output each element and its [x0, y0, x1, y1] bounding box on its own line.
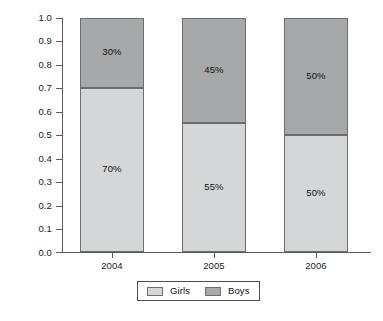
y-tick-label-0-2: 0.2 [26, 201, 52, 211]
bar-2006-label-girls: 50% [306, 188, 325, 198]
plot-area: 30% 70% 45% 55% 50% 50% [63, 18, 370, 252]
x-tick-mark-2006 [316, 253, 317, 258]
legend-swatch-girls-icon [147, 287, 163, 296]
y-tick-label-0-3: 0.3 [26, 177, 52, 187]
bar-2006-segment-girls[interactable]: 50% [284, 135, 348, 252]
y-tick-label-0-6: 0.6 [26, 107, 52, 117]
bar-2004-label-boys: 30% [102, 47, 121, 57]
bar-2004[interactable]: 30% 70% [80, 18, 144, 252]
bar-2005-label-girls: 55% [204, 182, 223, 192]
y-tick-label-0-1: 0.1 [26, 224, 52, 234]
bar-2004-label-girls: 70% [102, 164, 121, 174]
bar-2006-segment-boys[interactable]: 50% [284, 18, 348, 135]
legend-label-boys: Boys [228, 286, 250, 296]
legend-entry-girls[interactable]: Girls [147, 286, 190, 296]
y-tick-label-0-4: 0.4 [26, 154, 52, 164]
bar-2005-segment-boys[interactable]: 45% [182, 18, 246, 123]
bar-2006-label-boys: 50% [306, 71, 325, 81]
legend-entry-boys[interactable]: Boys [205, 286, 250, 296]
x-tick-label-2004: 2004 [82, 261, 142, 271]
y-tick-label-0-7: 0.7 [26, 83, 52, 93]
y-tick-label-0-8: 0.8 [26, 60, 52, 70]
bar-2006[interactable]: 50% 50% [284, 18, 348, 252]
legend-label-girls: Girls [170, 286, 190, 296]
bar-2005-segment-girls[interactable]: 55% [182, 123, 246, 252]
x-tick-label-2005: 2005 [184, 261, 244, 271]
bar-2004-segment-boys[interactable]: 30% [80, 18, 144, 88]
y-tick-label-0-0: 0.0 [26, 248, 52, 258]
stacked-bar-chart: 1.0 0.9 0.8 0.7 0.6 0.5 0.4 0.3 0.2 0.1 … [0, 0, 383, 321]
y-tick-label-1-0: 1.0 [26, 13, 52, 23]
chart-legend: Girls Boys [137, 281, 260, 301]
y-tick-label-0-9: 0.9 [26, 36, 52, 46]
x-tick-label-2006: 2006 [286, 261, 346, 271]
x-tick-mark-2005 [214, 253, 215, 258]
y-axis-tick-labels: 1.0 0.9 0.8 0.7 0.6 0.5 0.4 0.3 0.2 0.1 … [24, 0, 52, 321]
bar-2004-segment-girls[interactable]: 70% [80, 88, 144, 252]
x-axis-line [62, 252, 371, 253]
x-tick-mark-2004 [112, 253, 113, 258]
bar-2005-label-boys: 45% [204, 65, 223, 75]
bar-2005[interactable]: 45% 55% [182, 18, 246, 252]
y-tick-label-0-5: 0.5 [26, 130, 52, 140]
legend-swatch-boys-icon [205, 287, 221, 296]
